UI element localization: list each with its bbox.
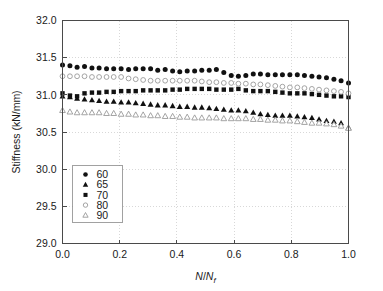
data-point (148, 101, 154, 106)
data-point (331, 77, 336, 82)
data-point (236, 116, 242, 121)
data-point (206, 105, 212, 110)
data-point (111, 75, 116, 80)
series-60 (60, 63, 351, 86)
data-point (243, 73, 248, 78)
series-90 (60, 107, 352, 130)
legend-marker-60 (83, 172, 88, 177)
xtick-label: 1.0 (341, 248, 356, 260)
data-point (67, 63, 72, 68)
data-point (185, 69, 190, 74)
data-point (148, 113, 154, 118)
data-point (192, 87, 196, 91)
data-point (192, 78, 197, 83)
data-point (228, 107, 234, 112)
data-point (280, 118, 286, 123)
data-point (287, 118, 293, 123)
ytick-label: 31.5 (36, 51, 57, 63)
data-point (280, 72, 285, 77)
data-point (287, 72, 292, 77)
chart-legend[interactable]: 6065708090 (73, 166, 123, 223)
ytick-label: 29.5 (36, 200, 57, 212)
data-point (82, 96, 88, 101)
legend-marker-70 (83, 193, 87, 197)
data-point (324, 88, 329, 93)
data-point (133, 100, 139, 105)
data-point (339, 89, 344, 94)
data-point (251, 72, 256, 77)
data-point (140, 112, 146, 117)
data-point (119, 75, 124, 80)
data-point (155, 68, 160, 73)
chart-figure: 29.029.530.030.531.031.532.00.00.20.40.6… (0, 0, 383, 291)
data-point (199, 68, 204, 73)
data-point (118, 99, 124, 104)
data-point (250, 110, 256, 115)
data-point (302, 73, 307, 78)
xtick-label: 0.8 (284, 248, 299, 260)
data-point (200, 87, 204, 91)
data-point (184, 114, 190, 119)
data-point (294, 119, 300, 124)
data-point (192, 115, 198, 120)
x-axis-title-subscript: f (213, 276, 216, 285)
data-point (68, 74, 73, 79)
data-point (163, 67, 168, 72)
data-point (295, 91, 299, 95)
data-point (126, 89, 130, 93)
data-point (177, 69, 182, 74)
data-point (163, 88, 167, 92)
data-point (221, 116, 227, 121)
data-point (89, 97, 95, 102)
data-point (302, 119, 308, 124)
ytick-label: 30.5 (36, 126, 57, 138)
data-point (155, 78, 160, 83)
data-point (258, 72, 263, 77)
data-point (236, 74, 241, 79)
data-point (214, 67, 219, 72)
data-point (221, 81, 226, 86)
data-point (111, 90, 115, 94)
data-point (324, 93, 328, 97)
data-point (273, 72, 278, 77)
data-point (141, 78, 146, 83)
data-point (295, 85, 300, 90)
data-point (251, 89, 255, 93)
data-point (309, 120, 315, 125)
data-point (243, 116, 249, 121)
data-point (126, 67, 131, 72)
data-point (162, 102, 168, 107)
data-point (229, 73, 234, 78)
data-point (214, 115, 220, 120)
data-point (251, 82, 256, 87)
data-point (243, 108, 249, 113)
data-point (295, 72, 300, 77)
data-point (118, 111, 124, 116)
data-point (339, 94, 343, 98)
data-point (170, 87, 174, 91)
ytick-label: 31.0 (36, 89, 57, 101)
data-point (317, 74, 322, 79)
data-point (222, 87, 226, 91)
data-point (214, 80, 219, 85)
data-point (148, 88, 152, 92)
data-point (170, 78, 175, 83)
data-point (162, 113, 168, 118)
data-point (97, 75, 102, 80)
data-point (332, 94, 336, 98)
data-point (96, 110, 102, 115)
data-point (104, 66, 109, 71)
data-point (156, 88, 160, 92)
data-point (96, 98, 102, 103)
ytick-label: 30.0 (36, 163, 57, 175)
data-point (250, 116, 256, 121)
data-point (177, 114, 183, 119)
data-point (185, 87, 189, 91)
data-point (104, 98, 110, 103)
data-point (134, 89, 138, 93)
data-point (82, 74, 87, 79)
data-point (273, 84, 278, 89)
data-point (126, 111, 132, 116)
data-point (309, 74, 314, 79)
data-point (221, 107, 227, 112)
